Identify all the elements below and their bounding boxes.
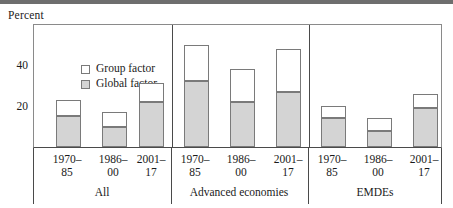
bar-segment-group-factor bbox=[139, 83, 164, 101]
bar-segment-global-factor bbox=[102, 127, 127, 148]
bar-segment-group-factor bbox=[184, 45, 209, 82]
white-square-icon bbox=[81, 65, 90, 74]
legend-label-group-factor: Group factor bbox=[96, 63, 155, 75]
bar-segment-group-factor bbox=[367, 118, 392, 130]
plot-area: Group factor Global factor bbox=[33, 24, 442, 148]
bar-segment-group-factor bbox=[276, 49, 301, 92]
group-label-all: All bbox=[72, 186, 132, 199]
bar-segment-global-factor bbox=[184, 81, 209, 147]
top-rule-divider bbox=[0, 0, 453, 4]
x-label-emde-2001-17: 2001– 17 bbox=[395, 153, 453, 179]
bar-all-1970-85 bbox=[56, 100, 81, 147]
bar-segment-group-factor bbox=[102, 112, 127, 126]
gray-square-icon bbox=[81, 80, 90, 89]
bar-ae-1970-85 bbox=[184, 45, 209, 148]
group-separator-1 bbox=[172, 25, 173, 148]
bar-all-2001-17 bbox=[139, 83, 164, 147]
bar-segment-global-factor bbox=[56, 116, 81, 147]
bar-segment-group-factor bbox=[413, 94, 438, 108]
bar-ae-2001-17 bbox=[276, 49, 301, 147]
x-axis-label-band: 1970– 85 1986– 00 2001– 17 1970– 85 1986… bbox=[33, 148, 442, 208]
bar-all-1986-00 bbox=[102, 112, 127, 147]
bar-segment-group-factor bbox=[230, 69, 255, 102]
x-band-left-edge bbox=[33, 148, 34, 204]
bar-emde-1986-00 bbox=[367, 118, 392, 147]
bar-segment-group-factor bbox=[321, 106, 346, 118]
x-label-line1: 2001– bbox=[395, 153, 453, 166]
bar-segment-global-factor bbox=[276, 92, 301, 147]
bar-segment-global-factor bbox=[367, 131, 392, 147]
group-label-advanced-economies: Advanced economies bbox=[179, 186, 299, 199]
bar-segment-global-factor bbox=[139, 102, 164, 147]
y-axis-unit-label: Percent bbox=[8, 9, 44, 21]
percent-stacked-bar-chart: Percent 40 20 Group factor Global factor bbox=[0, 0, 453, 208]
bar-segment-global-factor bbox=[230, 102, 255, 147]
bar-ae-1986-00 bbox=[230, 69, 255, 147]
bar-emde-2001-17 bbox=[413, 94, 438, 147]
group-label-emdes: EMDEs bbox=[345, 186, 405, 199]
bar-segment-group-factor bbox=[56, 100, 81, 116]
y-tick-label-20: 20 bbox=[0, 101, 28, 113]
legend-item-group-factor: Group factor bbox=[81, 62, 157, 76]
x-label-line2: 17 bbox=[395, 166, 453, 179]
bar-segment-global-factor bbox=[321, 118, 346, 147]
bar-emde-1970-85 bbox=[321, 106, 346, 147]
bar-segment-global-factor bbox=[413, 108, 438, 147]
y-tick-label-40: 40 bbox=[0, 60, 28, 72]
group-separator-2 bbox=[309, 25, 310, 148]
